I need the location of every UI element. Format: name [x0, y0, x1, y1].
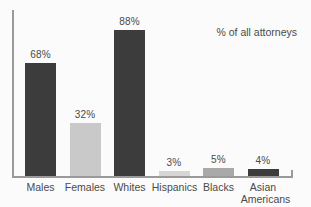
bar-females[interactable]	[70, 123, 101, 176]
bar-blacks[interactable]	[203, 168, 234, 176]
bar-males[interactable]	[25, 63, 56, 176]
bar-hispanics[interactable]	[159, 171, 190, 176]
bar-value-label: 4%	[256, 155, 271, 166]
bar-group: 68%	[25, 10, 56, 176]
bar-value-label: 3%	[167, 157, 182, 168]
bar-value-label: 32%	[75, 109, 96, 120]
category-label-line1: Blacks	[203, 181, 234, 193]
bar-value-label: 5%	[211, 154, 226, 165]
bar-whites[interactable]	[114, 30, 145, 176]
category-label-line1: Females	[65, 181, 105, 193]
bar-group: 3%	[159, 10, 190, 176]
bar-group: 32%	[70, 10, 101, 176]
bar-chart: 68%32%88%3%5%4% % of all attorneys Males…	[0, 0, 311, 207]
bar-value-label: 68%	[30, 49, 51, 60]
category-label-whites: Whites	[107, 181, 152, 193]
category-label-blacks: Blacks	[196, 181, 241, 193]
category-label-line2: Americans	[241, 193, 286, 205]
category-label-line1: Males	[26, 181, 54, 193]
category-label-hispanics: Hispanics	[152, 181, 197, 193]
chart-legend-label: % of all attorneys	[216, 26, 297, 38]
bar-group: 88%	[114, 10, 145, 176]
x-axis-line	[12, 176, 293, 178]
category-label-line1: Hispanics	[152, 181, 198, 193]
category-label-line1: Whites	[113, 181, 145, 193]
bar-asian-americans[interactable]	[248, 169, 279, 176]
category-label-males: Males	[18, 181, 63, 193]
bar-value-label: 88%	[119, 16, 140, 27]
category-label-line1: Asian	[250, 181, 276, 193]
category-label-females: Females	[63, 181, 108, 193]
category-label-asian-americans: AsianAmericans	[241, 181, 286, 205]
